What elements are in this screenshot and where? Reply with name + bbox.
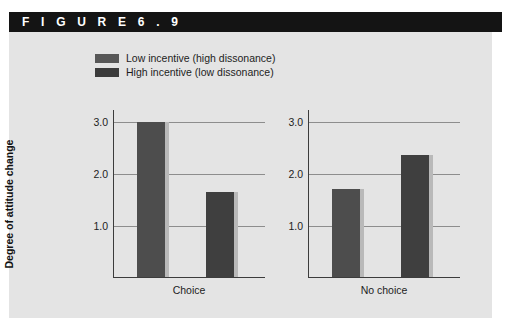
y-tick-label-2: 2.0 (93, 169, 108, 180)
bar-no-choice-high-incentive (401, 155, 429, 277)
chart-legend: Low incentive (high dissonance) High inc… (95, 52, 275, 80)
bar-shadow (165, 122, 169, 277)
bar-shadow (429, 155, 433, 277)
bar-shadow (360, 189, 364, 277)
panel-choice: 3.0 2.0 1.0 Choice (113, 110, 265, 278)
legend-item-high-incentive: High incentive (low dissonance) (95, 66, 275, 78)
y-axis-line (308, 110, 309, 278)
figure-number-banner: F I G U R E 6 . 9 (9, 12, 502, 32)
legend-item-label: Low incentive (high dissonance) (126, 52, 275, 64)
x-category-label-no-choice: No choice (308, 284, 460, 296)
x-category-label-choice: Choice (113, 284, 265, 296)
x-axis-line (113, 277, 265, 278)
y-axis-line (113, 110, 114, 278)
legend-item-label: High incentive (low dissonance) (126, 66, 274, 78)
panel-no-choice: 3.0 2.0 1.0 No choice (308, 110, 460, 278)
y-tick-label-1: 1.0 (288, 221, 303, 232)
x-axis-line (308, 277, 460, 278)
gridline-2 (309, 174, 460, 175)
figure-container: F I G U R E 6 . 9 Low incentive (high di… (0, 0, 512, 335)
bar-choice-low-incentive (137, 122, 165, 277)
y-tick-label-3: 3.0 (288, 117, 303, 128)
legend-item-low-incentive: Low incentive (high dissonance) (95, 52, 275, 64)
legend-swatch-icon (95, 68, 119, 77)
legend-swatch-icon (95, 54, 119, 63)
gridline-3 (309, 122, 460, 123)
figure-plot-area: Low incentive (high dissonance) High inc… (9, 32, 492, 318)
bar-choice-high-incentive (206, 192, 234, 277)
y-tick-label-1: 1.0 (93, 221, 108, 232)
y-axis-title: Degree of attitude change (3, 124, 15, 284)
bar-shadow (234, 192, 238, 277)
y-tick-label-2: 2.0 (288, 169, 303, 180)
bar-no-choice-low-incentive (332, 189, 360, 277)
y-tick-label-3: 3.0 (93, 117, 108, 128)
